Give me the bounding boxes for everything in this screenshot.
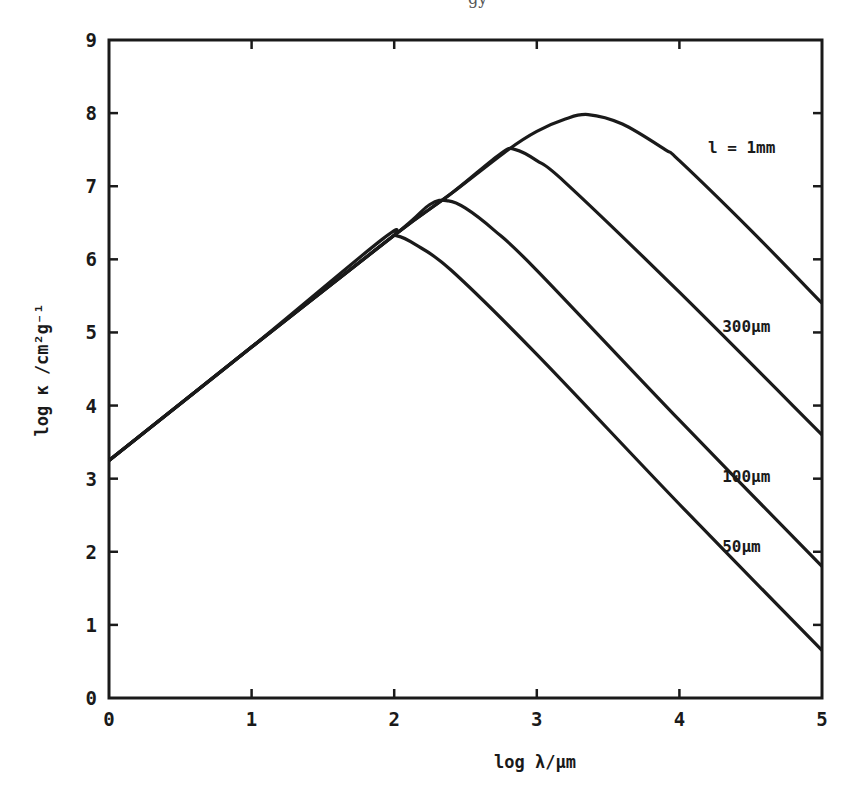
curve-label: l = 1mm	[708, 138, 776, 157]
x-tick-label: 5	[816, 708, 827, 730]
x-tick-label: 3	[531, 708, 542, 730]
y-tick-label: 9	[86, 29, 97, 51]
y-tick-label: 2	[86, 541, 97, 563]
y-axis: 0123456789	[86, 29, 822, 709]
curve-l-1mm	[109, 114, 822, 460]
x-axis-title: log λ/μm	[494, 752, 576, 772]
y-tick-label: 1	[86, 614, 97, 636]
y-tick-label: 6	[86, 248, 97, 270]
curve-label: 50μm	[722, 537, 761, 556]
curve-label: 300μm	[722, 317, 771, 336]
y-axis-title: log κ /cm²g⁻¹	[32, 303, 52, 436]
y-tick-label: 8	[86, 102, 97, 124]
y-tick-label: 5	[86, 321, 97, 343]
curve-100-m	[109, 200, 822, 566]
y-tick-label: 3	[86, 468, 97, 490]
curve-labels: l = 1mm300μm100μm50μm	[708, 138, 776, 555]
curve-50-m	[109, 230, 822, 651]
curves	[109, 114, 822, 650]
x-tick-label: 1	[246, 708, 257, 730]
x-tick-label: 4	[674, 708, 685, 730]
opacity-chart: gy 012345 0123456789 l = 1mm300μm100μm50…	[0, 0, 854, 800]
curve-label: 100μm	[722, 467, 771, 486]
x-tick-label: 2	[388, 708, 399, 730]
page-header-fragment: gy	[468, 0, 487, 8]
y-tick-label: 4	[86, 395, 97, 417]
y-tick-label: 0	[86, 687, 97, 709]
x-tick-label: 0	[103, 708, 114, 730]
y-tick-label: 7	[86, 175, 97, 197]
